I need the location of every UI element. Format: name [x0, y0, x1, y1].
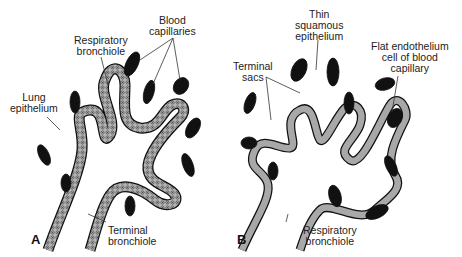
- diagram-art: [0, 0, 462, 257]
- label-thin-squamous-epithelium: Thin squamous epithelium: [295, 9, 343, 42]
- label-lung-epithelium: Lung epithelium: [10, 92, 58, 114]
- label-line: capillary: [371, 63, 449, 74]
- label-line: capillaries: [149, 26, 196, 37]
- label-line: bronchiole: [108, 236, 156, 247]
- label-terminal-bronchiole: Terminal bronchiole: [108, 225, 156, 247]
- label-line: epithelium: [10, 103, 58, 114]
- label-line: bronchiole: [303, 236, 357, 247]
- panel-a-bronchiole-tree: [35, 38, 204, 250]
- label-blood-capillaries: Blood capillaries: [149, 15, 196, 37]
- label-line: epithelium: [295, 31, 343, 42]
- lung-diagram: Blood capillaries Respiratory bronchiole…: [0, 0, 462, 257]
- label-line: sacs: [233, 72, 273, 83]
- label-flat-endothelium: Flat endothelium cell of blood capillary: [371, 41, 449, 74]
- label-terminal-sacs: Terminal sacs: [233, 61, 273, 83]
- label-respiratory-bronchiole-b: Respiratory bronchiole: [303, 225, 357, 247]
- panel-letter-a: A: [31, 232, 40, 247]
- panel-letter-b: B: [237, 232, 246, 247]
- label-respiratory-bronchiole-a: Respiratory bronchiole: [74, 35, 128, 57]
- label-line: bronchiole: [74, 46, 128, 57]
